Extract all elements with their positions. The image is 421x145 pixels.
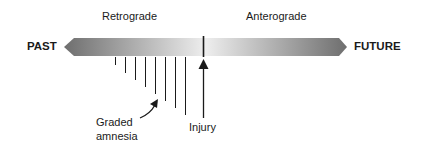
injury-arrow-icon (199, 59, 209, 118)
timeline-arrow (64, 38, 347, 56)
timeline-diagram (0, 0, 421, 145)
graded-amnesia-ticks (116, 57, 186, 115)
graded-amnesia-arrow-icon (140, 99, 158, 118)
